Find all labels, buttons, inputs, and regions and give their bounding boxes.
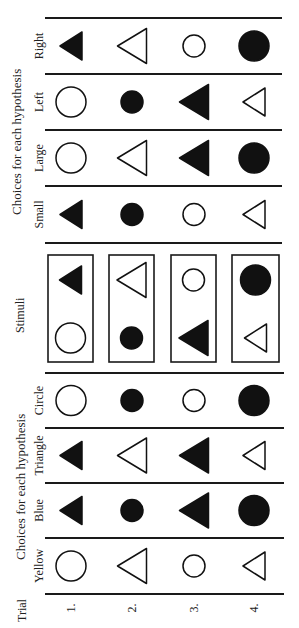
choice-blue-trial-3: [180, 493, 209, 528]
choice-triangle-trial-1: [60, 442, 82, 470]
stimuli-label: Stimuli: [13, 297, 27, 333]
choice-large-trial-4: [239, 143, 269, 173]
choice-left-trial-4: [243, 88, 265, 116]
choice-circle-trial-3: [183, 390, 205, 412]
group-label-top: Choices for each hypothesis: [9, 69, 24, 215]
choice-small-trial-1: [60, 201, 82, 229]
choice-large-trial-2: [118, 141, 147, 176]
stimulus-top-trial-1: [60, 266, 82, 294]
shape-marks: [56, 29, 271, 584]
choice-right-trial-2: [118, 29, 147, 64]
group-label-bottom: Choices for each hypothesis: [13, 414, 28, 560]
choice-yellow-trial-2: [118, 549, 147, 584]
choice-circle-trial-1: [56, 386, 86, 416]
choice-small-trial-3: [183, 204, 205, 226]
hypothesis-label-blue: Blue: [32, 499, 46, 522]
hypothesis-choice-diagram: Choices for each hypothesis Choices for …: [0, 0, 299, 628]
choice-yellow-trial-4: [243, 552, 265, 580]
stimulus-bottom-trial-3: [179, 321, 208, 356]
hypothesis-label-left: Left: [32, 91, 46, 112]
stimulus-top-trial-2: [117, 263, 146, 298]
choice-right-trial-3: [183, 35, 205, 57]
hypothesis-label-large: Large: [32, 144, 46, 172]
choice-large-trial-3: [180, 141, 209, 176]
choice-triangle-trial-4: [243, 442, 265, 470]
choice-right-trial-1: [60, 32, 82, 60]
choice-large-trial-1: [56, 143, 86, 173]
hypothesis-label-small: Small: [32, 200, 46, 229]
choice-blue-trial-2: [121, 500, 143, 522]
choice-yellow-trial-1: [56, 551, 86, 581]
hypothesis-label-yellow: Yellow: [32, 549, 46, 583]
choice-right-trial-4: [239, 31, 269, 61]
trial-number-1: 1.: [64, 604, 78, 613]
choice-triangle-trial-3: [180, 438, 209, 473]
choice-left-trial-2: [121, 91, 143, 113]
trial-number-3: 3.: [187, 604, 201, 613]
choice-circle-trial-2: [121, 390, 143, 412]
choice-blue-trial-1: [60, 497, 82, 525]
stimulus-bottom-trial-4: [245, 324, 267, 352]
choice-left-trial-3: [180, 85, 209, 120]
stimulus-bottom-trial-1: [56, 323, 86, 353]
stimulus-bottom-trial-2: [121, 327, 143, 349]
hypothesis-label-circle: Circle: [32, 386, 46, 415]
hypothesis-label-right: Right: [32, 32, 46, 59]
choice-triangle-trial-2: [118, 438, 147, 473]
stimulus-top-trial-4: [241, 265, 271, 295]
choice-blue-trial-4: [239, 496, 269, 526]
trial-label: Trial: [15, 598, 29, 622]
trial-number-4: 4.: [247, 604, 261, 613]
hypothesis-label-triangle: Triangle: [32, 435, 46, 475]
choice-left-trial-1: [56, 87, 86, 117]
choice-small-trial-2: [121, 204, 143, 226]
stimulus-top-trial-3: [183, 269, 205, 291]
trial-number-2: 2.: [125, 604, 139, 613]
choice-small-trial-4: [243, 201, 265, 229]
choice-yellow-trial-3: [183, 555, 205, 577]
choice-circle-trial-4: [239, 386, 269, 416]
